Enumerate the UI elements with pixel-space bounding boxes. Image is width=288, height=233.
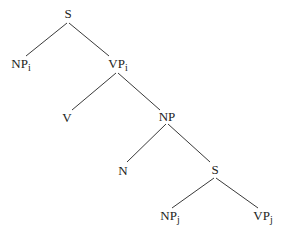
edge-s-to-np-i: [26, 23, 67, 56]
node-label: VP: [108, 56, 125, 71]
node-subscript: j: [270, 214, 273, 225]
node-vp-j: VPj: [253, 209, 272, 223]
edge-s-to-vp-j: [216, 178, 258, 208]
node-np-i: NPi: [11, 57, 30, 71]
node-label: V: [62, 110, 71, 125]
edge-np-to-n: [127, 124, 166, 162]
node-label: NP: [11, 56, 28, 71]
node-label: S: [211, 162, 218, 177]
node-vp-i: VPi: [108, 57, 127, 71]
edge-vp-i-to-np: [118, 73, 160, 110]
node-np: NP: [159, 110, 176, 124]
node-label: NP: [160, 208, 177, 223]
edge-np-to-s: [168, 124, 210, 162]
node-label: NP: [159, 109, 176, 124]
node-label: N: [118, 163, 127, 178]
edge-s-to-vp-i: [69, 23, 109, 56]
node-s-embedded: S: [211, 163, 218, 177]
edge-s-to-np-j: [172, 178, 214, 208]
node-label: VP: [253, 208, 270, 223]
node-n: N: [118, 164, 127, 178]
node-subscript: i: [28, 62, 31, 73]
node-subscript: i: [125, 62, 128, 73]
syntax-tree-edges: [0, 0, 288, 233]
node-subscript: j: [177, 214, 180, 225]
node-label: S: [64, 6, 71, 21]
edge-vp-i-to-v: [72, 73, 116, 110]
node-np-j: NPj: [160, 209, 179, 223]
node-v: V: [62, 111, 71, 125]
node-root-s: S: [64, 7, 71, 21]
